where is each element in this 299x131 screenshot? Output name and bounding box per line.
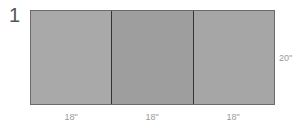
panel-1-width-label: 18" [31,112,111,122]
height-label: 20" [279,53,292,63]
panel-2-width-label: 18" [112,112,192,122]
panel-row [30,10,275,105]
panel-3 [193,11,274,104]
figure-number: 1 [9,4,20,27]
panel-1 [31,11,111,104]
panel-2 [111,11,192,104]
panel-3-width-label: 18" [193,112,273,122]
